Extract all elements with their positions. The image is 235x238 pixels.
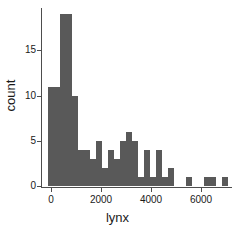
histogram-bars [42,8,232,186]
x-tick-mark [151,188,152,192]
histogram-bar [210,177,216,186]
x-tick-label: 2000 [90,194,112,205]
histogram-bar [222,177,228,186]
x-tick-mark [51,188,52,192]
x-axis-line [41,187,232,188]
y-tick-label: 10 [25,91,36,101]
y-tick-mark [37,50,41,51]
x-tick-mark [201,188,202,192]
x-tick-label: 0 [48,194,54,205]
x-tick-mark [101,188,102,192]
x-tick-label: 4000 [140,194,162,205]
y-tick-label: 5 [30,136,36,146]
x-axis-title: lynx [0,210,235,225]
y-tick-mark [37,186,41,187]
y-axis-title: count [3,66,18,126]
y-axis-line [41,8,42,187]
histogram-chart: 051015 0200040006000 lynx count [0,0,235,238]
histogram-bar [186,177,192,186]
y-tick-label: 0 [30,181,36,191]
plot-area [42,8,232,186]
x-tick-label: 6000 [190,194,212,205]
y-tick-mark [37,141,41,142]
y-tick-label: 15 [25,45,36,55]
y-tick-mark [37,96,41,97]
histogram-bar [168,168,174,186]
